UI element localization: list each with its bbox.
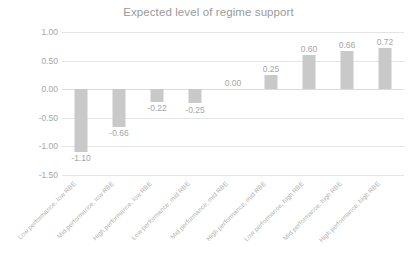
bar[interactable] [189,89,202,103]
bar-value-label: -1.10 [71,153,90,163]
bar[interactable] [341,51,354,89]
bar-slot[interactable]: -1.10 [62,32,100,175]
y-axis-tick-label: -0.50 [6,113,58,123]
bar-value-label: -0.25 [185,105,204,115]
bar-value-label: 0.60 [301,44,318,54]
bar[interactable] [379,48,392,89]
bar-slot[interactable]: 0.66 [328,32,366,175]
bar[interactable] [303,55,316,89]
x-axis-label-slot: High performance, high RBE [366,176,404,258]
bar-slot[interactable]: -0.66 [100,32,138,175]
y-axis: 1.000.500.00-0.50-1.00-1.50 [0,32,58,175]
bar-slot[interactable]: 0.25 [252,32,290,175]
y-axis-tick-label: 1.00 [6,27,58,37]
bar-value-label: 0.66 [339,40,356,50]
bar[interactable] [265,75,278,89]
x-axis-labels: Low performance, low RBEMid performance,… [62,176,404,258]
bar[interactable] [75,89,88,152]
bar-slot[interactable]: -0.25 [176,32,214,175]
bar-slot[interactable]: -0.22 [138,32,176,175]
plot-area: -1.10-0.66-0.22-0.250.000.250.600.660.72 [62,32,404,175]
bar-value-label: -0.22 [147,103,166,113]
bar-slot[interactable]: 0.60 [290,32,328,175]
bar-value-label: -0.66 [109,128,128,138]
chart-title: Expected level of regime support [0,6,417,18]
y-axis-tick-label: 0.50 [6,56,58,66]
bar-slot[interactable]: 0.00 [214,32,252,175]
y-axis-tick-label: 0.00 [6,84,58,94]
bar-value-label: 0.25 [263,64,280,74]
bar-chart: Expected level of regime support 1.000.5… [0,0,417,258]
bar[interactable] [151,89,164,102]
bar-slot[interactable]: 0.72 [366,32,404,175]
bar-value-label: 0.72 [377,37,394,47]
y-axis-tick-label: -1.50 [6,170,58,180]
bar-value-label: 0.00 [225,78,242,88]
bar[interactable] [113,89,126,127]
y-axis-tick-label: -1.00 [6,141,58,151]
